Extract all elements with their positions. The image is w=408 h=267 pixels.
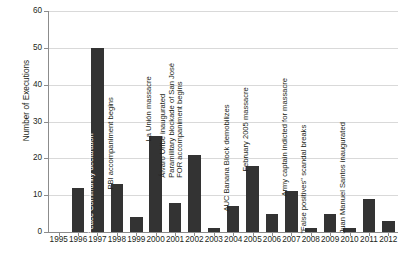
annotation-2002: Álvaro Uribe inauguratedParamilitary blo… (159, 63, 185, 178)
x-tick-mark-2006 (272, 232, 273, 236)
y-tick-label-20: 20 (18, 154, 42, 162)
x-tick-mark-2003 (214, 232, 215, 236)
bar-2009 (324, 214, 337, 232)
x-tick-mark-1996 (78, 232, 79, 236)
annotation-line: Peace Community declaration (88, 133, 97, 234)
y-tick-mark-0 (44, 232, 48, 233)
annotation-line: AUC Banana Block demobilizes (223, 105, 232, 212)
y-tick-label-0: 0 (18, 228, 42, 236)
x-tick-mark-2001 (175, 232, 176, 236)
y-tick-mark-20 (44, 158, 48, 159)
bar-2012 (382, 221, 395, 232)
bar-1998 (111, 184, 124, 232)
gridline-60 (49, 11, 398, 12)
x-tick-mark-1999 (136, 232, 137, 236)
y-tick-label-40: 40 (18, 81, 42, 89)
y-tick-mark-60 (44, 11, 48, 12)
x-tick-mark-2008 (311, 232, 312, 236)
bar-2002 (188, 155, 201, 232)
x-tick-mark-2010 (350, 232, 351, 236)
y-tick-label-30: 30 (18, 118, 42, 126)
x-tick-mark-1998 (117, 232, 118, 236)
bar-2001 (169, 203, 182, 232)
annotation-2010: Juan Manuel Santos inaugurated (340, 122, 349, 233)
bar-2007 (285, 191, 298, 232)
y-tick-label-50: 50 (18, 44, 42, 52)
annotation-2000: La Unión massacre (146, 76, 155, 141)
x-tick-label-2012: 2012 (377, 236, 399, 244)
x-tick-mark-2000 (156, 232, 157, 236)
x-tick-mark-2004 (233, 232, 234, 236)
annotation-line: La Unión massacre (146, 76, 155, 141)
annotation-line: Álvaro Uribe inaugurated (159, 63, 168, 178)
x-tick-mark-1997 (97, 232, 98, 236)
x-tick-mark-2011 (369, 232, 370, 236)
executions-bar-chart: Number of Executions 0102030405060 Peace… (0, 0, 408, 267)
annotation-1998: PBI accompaniment begins (107, 97, 116, 189)
plot-area: Peace Community declarationPBI accompani… (49, 11, 398, 232)
x-tick-mark-1995 (59, 232, 60, 236)
y-tick-label-10: 10 (18, 191, 42, 199)
annotation-2004: AUC Banana Block demobilizes (223, 105, 232, 212)
y-tick-label-60: 60 (18, 7, 42, 15)
annotation-2005: February 2005 massacre (243, 87, 252, 171)
x-tick-mark-2002 (194, 232, 195, 236)
annotation-line: FOR accompaniment begins (176, 63, 185, 178)
x-tick-mark-2007 (291, 232, 292, 236)
y-tick-mark-40 (44, 85, 48, 86)
annotation-2008: "False positives" scandal breaks (301, 125, 310, 234)
annotation-line: February 2005 massacre (243, 87, 252, 171)
annotation-2007: Army captain indicted for massacre (281, 78, 290, 197)
annotation-line: Army captain indicted for massacre (281, 78, 290, 197)
annotation-line: PBI accompaniment begins (107, 97, 116, 189)
x-tick-mark-2009 (330, 232, 331, 236)
x-tick-mark-2005 (253, 232, 254, 236)
y-tick-mark-50 (44, 48, 48, 49)
annotation-line: "False positives" scandal breaks (301, 125, 310, 234)
bar-2011 (363, 199, 376, 232)
x-tick-mark-2012 (388, 232, 389, 236)
bar-1999 (130, 217, 143, 232)
annotation-1997: Peace Community declaration (88, 133, 97, 234)
annotation-line: Juan Manuel Santos inaugurated (340, 122, 349, 233)
bar-2005 (246, 166, 259, 232)
y-tick-mark-10 (44, 195, 48, 196)
bar-1996 (72, 188, 85, 232)
y-tick-mark-30 (44, 122, 48, 123)
bar-2006 (266, 214, 279, 232)
